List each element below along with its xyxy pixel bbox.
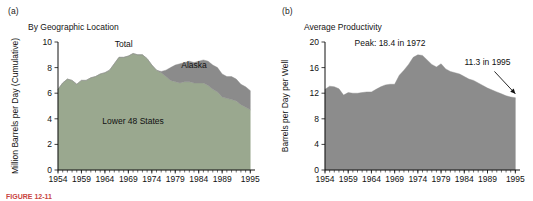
y-tick-label: 6 bbox=[47, 88, 52, 98]
x-tick-label: 1969 bbox=[119, 174, 138, 184]
x-tick-label: 1995 bbox=[506, 174, 525, 184]
panel-b-average-productivity: (b) Average Productivity 048121620195419… bbox=[270, 0, 533, 201]
panel-a-title: By Geographic Location bbox=[28, 22, 119, 32]
x-tick-label: 1959 bbox=[72, 174, 91, 184]
y-tick-label: 8 bbox=[47, 63, 52, 73]
y-axis-title: Million Barrels per Day (Cumulative) bbox=[10, 38, 20, 174]
y-tick-label: 20 bbox=[310, 37, 320, 47]
panel-a-letter: (a) bbox=[8, 6, 19, 16]
x-tick-label: 1995 bbox=[241, 174, 260, 184]
y-tick-label: 10 bbox=[43, 37, 53, 47]
area-average-productivity bbox=[325, 55, 515, 170]
figure-container: (a) By Geographic Location 0246810195419… bbox=[0, 0, 533, 201]
x-tick-label: 1989 bbox=[213, 174, 232, 184]
panel-a-geographic-location: (a) By Geographic Location 0246810195419… bbox=[0, 0, 270, 201]
y-tick-label: 4 bbox=[47, 114, 52, 124]
annotation-arrow-1995 bbox=[494, 71, 515, 93]
annotation-label-2: Lower 48 States bbox=[102, 116, 163, 126]
x-tick-label: 1954 bbox=[49, 174, 68, 184]
x-tick-label: 1989 bbox=[478, 174, 497, 184]
y-tick-label: 16 bbox=[310, 63, 320, 73]
annotation-label-0: Total bbox=[115, 39, 133, 49]
y-tick-label: 2 bbox=[47, 139, 52, 149]
x-tick-label: 1964 bbox=[95, 174, 114, 184]
annotation-label-1: Alaska bbox=[181, 60, 207, 70]
x-tick-label: 1984 bbox=[455, 174, 474, 184]
x-tick-label: 1984 bbox=[189, 174, 208, 184]
x-tick-label: 1974 bbox=[408, 174, 427, 184]
x-tick-label: 1974 bbox=[142, 174, 161, 184]
panel-b-title: Average Productivity bbox=[304, 22, 382, 32]
x-tick-label: 1954 bbox=[316, 174, 335, 184]
x-tick-label: 1979 bbox=[432, 174, 451, 184]
y-axis-title: Barrels per Day per Well bbox=[280, 60, 290, 153]
x-tick-label: 1969 bbox=[385, 174, 404, 184]
y-tick-label: 4 bbox=[314, 139, 319, 149]
y-tick-label: 8 bbox=[314, 114, 319, 124]
annotation-label-1: 11.3 in 1995 bbox=[464, 57, 510, 67]
x-tick-label: 1979 bbox=[166, 174, 185, 184]
panel-b-letter: (b) bbox=[282, 6, 293, 16]
x-tick-label: 1964 bbox=[362, 174, 381, 184]
x-tick-label: 1959 bbox=[339, 174, 358, 184]
area-lower-48-states bbox=[58, 54, 250, 170]
figure-caption: FIGURE 12-11 bbox=[6, 193, 52, 201]
annotation-label-0: Peak: 18.4 in 1972 bbox=[355, 38, 426, 48]
y-tick-label: 12 bbox=[310, 88, 320, 98]
